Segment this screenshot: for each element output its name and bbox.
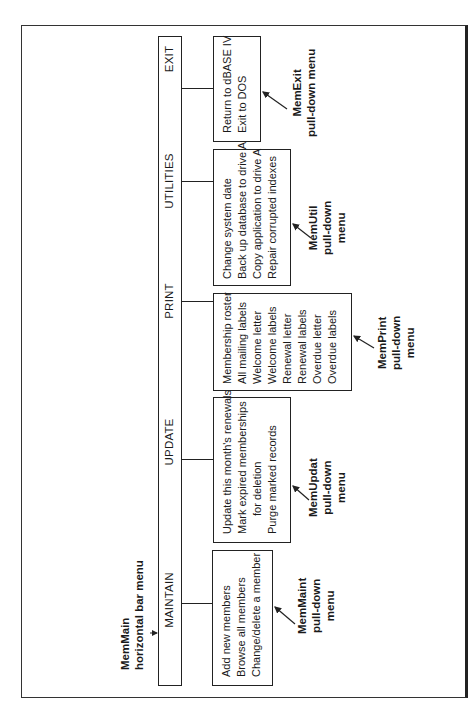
menu-structure-diagram: MemMain horizontal bar menu MAINTAIN UPD… (0, 0, 475, 722)
pointer-arrows (0, 0, 475, 722)
update-arrow-icon (293, 486, 309, 500)
maintain-arrow-icon (275, 607, 295, 624)
exit-arrow-icon (263, 92, 287, 109)
print-arrow-icon (354, 336, 374, 348)
utilities-arrow-icon (293, 224, 311, 238)
